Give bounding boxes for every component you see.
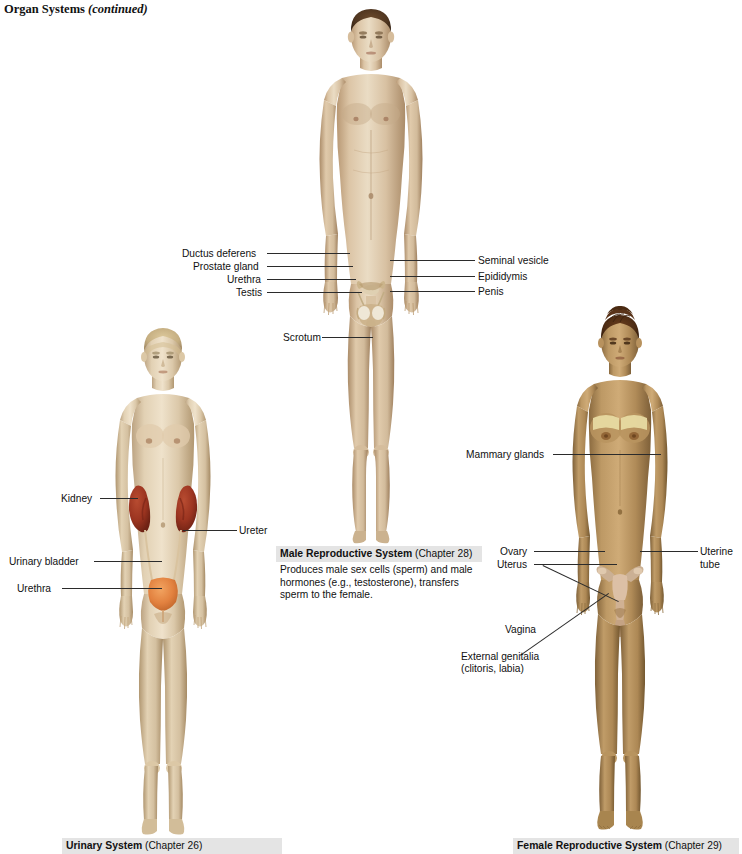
urinary-body-illustration [88,318,238,838]
label-prostate-gland: Prostate gland [193,261,259,273]
leader-urethra-female [62,588,162,589]
male-body-illustration [296,0,446,545]
label-uterine-tube-line2: tube [700,559,720,571]
leader-ovary [534,551,605,552]
female-caption-title: Female Reproductive System [517,840,662,851]
leader-epididymis [390,276,475,277]
label-epididymis: Epididymis [478,271,527,283]
page-header-title: Organ Systems [4,2,85,16]
male-caption-chapter: (Chapter 28) [415,548,472,559]
label-scrotum: Scrotum [283,332,321,344]
label-urethra: Urethra [227,274,261,286]
label-testis: Testis [236,287,262,299]
female-caption-title-band: Female Reproductive System (Chapter 29) [513,838,739,854]
leader-kidney [100,498,138,499]
label-urethra-female: Urethra [17,583,51,595]
leader-testis [267,292,362,293]
urinary-caption-title-band: Urinary System (Chapter 26) [62,838,282,854]
label-vagina: Vagina [505,624,536,636]
label-uterus: Uterus [497,559,527,571]
page-header-continued: (continued) [88,2,148,16]
leader-penis [390,291,475,292]
female-reproductive-figure [545,300,695,840]
leader-uterine-tube [640,551,698,552]
urinary-caption-title: Urinary System [66,840,142,851]
label-ovary: Ovary [500,546,527,558]
label-external-genitalia-line1: External genitalia [461,651,539,663]
leader-prostate-gland [267,266,353,267]
male-body-figure [296,0,446,545]
label-kidney: Kidney [61,493,92,505]
label-ductus-deferens: Ductus deferens [182,248,256,260]
male-caption-title-band: Male Reproductive System (Chapter 28) [276,546,482,562]
label-uterine-tube-line1: Uterine [700,546,733,558]
male-caption-title: Male Reproductive System [280,548,412,559]
page-header: Organ Systems (continued) [4,2,148,17]
female-reproductive-illustration [545,300,695,840]
leader-ductus-deferens [267,253,350,254]
label-seminal-vesicle: Seminal vesicle [478,255,549,267]
label-ureter: Ureter [239,525,267,537]
leader-mammary-glands [553,454,661,455]
leader-scrotum [322,337,373,338]
urinary-caption-chapter: (Chapter 26) [145,840,202,851]
leader-seminal-vesicle [390,260,475,261]
label-mammary-glands: Mammary glands [466,449,544,461]
male-caption-body: Produces male sex cells (sperm) and male… [276,562,482,601]
leader-uterus [534,564,617,565]
urinary-system-caption: Urinary System (Chapter 26) [62,838,282,854]
label-penis: Penis [478,286,503,298]
leader-urinary-bladder [94,561,162,562]
leader-urethra [267,279,356,280]
female-urinary-figure [88,318,238,838]
label-urinary-bladder: Urinary bladder [9,556,79,568]
leader-ureter [183,530,237,531]
female-caption-chapter: (Chapter 29) [665,840,722,851]
male-reproductive-caption: Male Reproductive System (Chapter 28) Pr… [276,546,482,602]
label-external-genitalia-line2: (clitoris, labia) [461,663,524,675]
female-reproductive-caption: Female Reproductive System (Chapter 29) [513,838,739,854]
